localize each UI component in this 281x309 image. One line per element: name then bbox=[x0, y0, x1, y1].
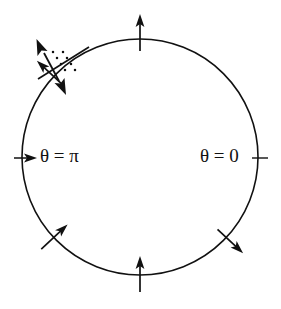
arrow-lower-right bbox=[215, 226, 247, 256]
arrow-bottom bbox=[136, 256, 145, 292]
label-theta-pi: θ = π bbox=[40, 145, 79, 166]
tick-theta-pi bbox=[14, 154, 37, 163]
arrow-top bbox=[136, 14, 145, 51]
arrow-lower-left bbox=[38, 221, 70, 252]
label-theta-zero: θ = 0 bbox=[200, 145, 239, 166]
phase-circle-diagram: θ = 0 θ = π bbox=[0, 0, 281, 309]
figure-root: θ = 0 θ = π bbox=[0, 0, 281, 309]
